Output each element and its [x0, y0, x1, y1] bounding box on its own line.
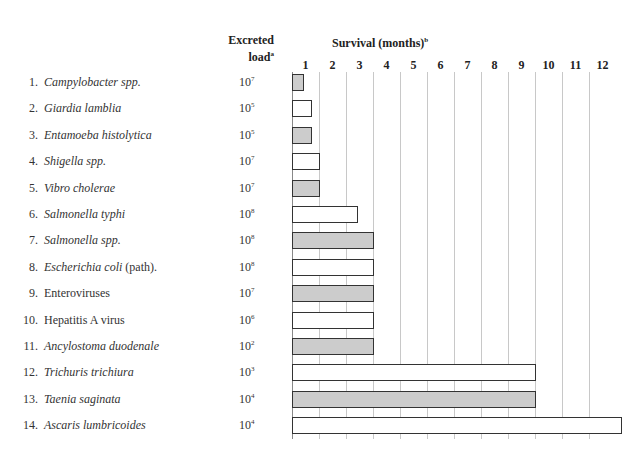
- row-number: 9.: [8, 286, 38, 301]
- pathogen-name-text: Ascaris lumbricoides: [44, 418, 146, 432]
- gridline: [319, 72, 320, 439]
- x-tick-label: 11: [562, 58, 589, 73]
- load-exponent: 7: [251, 181, 255, 189]
- row-number: 8.: [8, 260, 38, 275]
- load-exponent: 3: [251, 365, 255, 373]
- survival-bar: [292, 259, 374, 276]
- load-exponent: 7: [251, 154, 255, 162]
- load-base: 10: [239, 392, 251, 406]
- pathogen-name-text: Shigella spp.: [44, 154, 106, 168]
- load-base: 10: [239, 75, 251, 89]
- gridline: [427, 72, 428, 439]
- pathogen-name: Entamoeba histolytica: [44, 128, 152, 143]
- excreted-load-value: 108: [239, 207, 255, 222]
- load-base: 10: [239, 207, 251, 221]
- pathogen-name: Giardia lamblia: [44, 101, 121, 116]
- pathogen-name-text: Trichuris trichiura: [44, 365, 134, 379]
- survival-bar: [292, 206, 358, 223]
- survival-bar: [292, 364, 536, 381]
- load-base: 10: [239, 286, 251, 300]
- excreted-load-value: 106: [239, 313, 255, 328]
- gridline: [589, 72, 590, 439]
- excreted-load-value: 105: [239, 128, 255, 143]
- survival-header-text: Survival (months): [332, 36, 424, 50]
- load-base: 10: [239, 128, 251, 142]
- footnote-a: a: [271, 50, 275, 58]
- excreted-load-value: 104: [239, 418, 255, 433]
- x-tick-label: 10: [535, 58, 562, 73]
- excreted-load-header-line1: Excreted: [228, 33, 274, 47]
- load-base: 10: [239, 233, 251, 247]
- load-base: 10: [239, 181, 251, 195]
- pathogen-name-text: Campylobacter spp.: [44, 75, 141, 89]
- row-number: 3.: [8, 128, 38, 143]
- pathogen-name: Vibro cholerae: [44, 181, 115, 196]
- pathogen-name: Taenia saginata: [44, 392, 121, 407]
- load-base: 10: [239, 339, 251, 353]
- footnote-b: b: [424, 36, 428, 44]
- pathogen-name: Escherichia coli (path).: [44, 260, 157, 275]
- x-tick-label: 1: [292, 58, 319, 73]
- pathogen-name-text: Ancylostoma duodenale: [44, 339, 159, 353]
- pathogen-name: Trichuris trichiura: [44, 365, 134, 380]
- x-tick-label: 8: [481, 58, 508, 73]
- pathogen-name-text: Escherichia coli: [44, 260, 122, 274]
- x-tick-label: 7: [454, 58, 481, 73]
- pathogen-name-text: Salmonella typhi: [44, 207, 125, 221]
- gridline: [562, 72, 563, 439]
- gridline: [508, 72, 509, 439]
- survival-bar: [292, 127, 312, 144]
- gridline: [454, 72, 455, 439]
- excreted-load-value: 107: [239, 286, 255, 301]
- survival-header: Survival (months)b: [332, 33, 428, 50]
- survival-bar: [292, 417, 622, 434]
- x-tick-label: 12: [589, 58, 616, 73]
- row-number: 13.: [8, 392, 38, 407]
- load-base: 10: [239, 260, 251, 274]
- row-number: 4.: [8, 154, 38, 169]
- excreted-load-header: Excreted loada: [228, 33, 274, 64]
- x-tick-label: 2: [319, 58, 346, 73]
- excreted-load-value: 108: [239, 233, 255, 248]
- survival-bar: [292, 74, 304, 91]
- survival-bar: [292, 232, 374, 249]
- excreted-load-header-line2: load: [248, 50, 270, 64]
- pathogen-name-text: Entamoeba histolytica: [44, 128, 152, 142]
- load-exponent: 6: [251, 313, 255, 321]
- load-exponent: 2: [251, 339, 255, 347]
- pathogen-name: Ascaris lumbricoides: [44, 418, 146, 433]
- survival-bar: [292, 312, 374, 329]
- excreted-load-value: 102: [239, 339, 255, 354]
- x-tick-label: 3: [346, 58, 373, 73]
- survival-bar: [292, 180, 320, 197]
- gridline: [400, 72, 401, 439]
- load-exponent: 4: [251, 418, 255, 426]
- row-number: 1.: [8, 75, 38, 90]
- excreted-load-value: 107: [239, 181, 255, 196]
- pathogen-name: Hepatitis A virus: [44, 313, 125, 328]
- gridline: [535, 72, 536, 439]
- row-number: 12.: [8, 365, 38, 380]
- excreted-load-value: 105: [239, 101, 255, 116]
- pathogen-name-text: Enteroviruses: [44, 286, 110, 300]
- pathogen-name: Salmonella spp.: [44, 233, 121, 248]
- pathogen-name: Enteroviruses: [44, 286, 110, 301]
- load-base: 10: [239, 418, 251, 432]
- load-base: 10: [239, 365, 251, 379]
- gridline: [346, 72, 347, 439]
- row-number: 6.: [8, 207, 38, 222]
- gridline: [481, 72, 482, 439]
- pathogen-name-text: Taenia saginata: [44, 392, 121, 406]
- pathogen-name: Shigella spp.: [44, 154, 106, 169]
- pathogen-name: Salmonella typhi: [44, 207, 125, 222]
- survival-bar: [292, 391, 536, 408]
- survival-bar: [292, 285, 374, 302]
- load-exponent: 7: [251, 286, 255, 294]
- survival-bar: [292, 153, 320, 170]
- load-exponent: 8: [251, 207, 255, 215]
- x-tick-label: 5: [400, 58, 427, 73]
- survival-bar: [292, 100, 312, 117]
- excreted-load-value: 104: [239, 392, 255, 407]
- excreted-load-value: 107: [239, 154, 255, 169]
- load-exponent: 8: [251, 260, 255, 268]
